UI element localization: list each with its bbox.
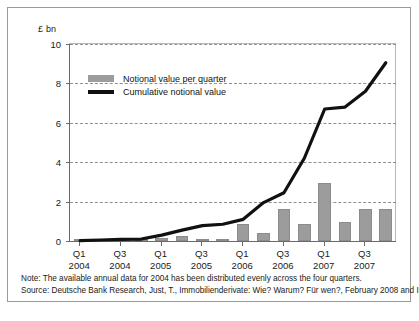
x-tick-label-year: 2004 — [97, 260, 143, 272]
chart-figure: £ bn 0246810 Q12004Q32004Q12005Q32005Q12… — [7, 7, 411, 302]
legend-swatch-line-icon — [88, 90, 114, 94]
y-tick-mark — [66, 241, 70, 242]
chart-legend: Notional value per quarter Cumulative no… — [88, 72, 227, 98]
x-tick-mark — [79, 242, 80, 246]
y-tick-label: 8 — [35, 78, 61, 89]
footnotes: Note: The available annual data for 2004… — [21, 273, 402, 296]
x-tick-label-quarter: Q1 — [56, 248, 102, 260]
note-line: Note: The available annual data for 2004… — [21, 273, 402, 285]
x-tick-label-year: 2007 — [301, 260, 347, 272]
legend-swatch-bar-icon — [88, 75, 114, 82]
y-tick-label: 6 — [35, 117, 61, 128]
x-tick-label-quarter: Q1 — [219, 248, 265, 260]
x-tick-label: Q12007 — [301, 248, 347, 272]
y-axis-unit-label: £ bn — [38, 24, 56, 34]
x-tick-label: Q12005 — [138, 248, 184, 272]
x-tick-mark — [283, 242, 284, 246]
legend-label-line: Cumulative notional value — [123, 87, 226, 97]
x-tick-label-year: 2005 — [138, 260, 184, 272]
x-tick-label-year: 2007 — [341, 260, 387, 272]
x-tick-label: Q12006 — [219, 248, 265, 272]
x-tick-label-year: 2005 — [178, 260, 224, 272]
y-tick-label: 2 — [35, 196, 61, 207]
x-tick-mark — [120, 242, 121, 246]
x-tick-mark — [161, 242, 162, 246]
x-tick-label-quarter: Q1 — [138, 248, 184, 260]
x-tick-mark — [364, 242, 365, 246]
x-tick-label-quarter: Q3 — [97, 248, 143, 260]
x-tick-label-quarter: Q1 — [301, 248, 347, 260]
x-tick-mark — [201, 242, 202, 246]
legend-item-line: Cumulative notional value — [88, 85, 227, 98]
x-tick-mark — [242, 242, 243, 246]
x-tick-label: Q32004 — [97, 248, 143, 272]
x-tick-label-year: 2006 — [260, 260, 306, 272]
y-tick-label: 10 — [35, 39, 61, 50]
x-tick-label-quarter: Q3 — [260, 248, 306, 260]
x-tick-label-quarter: Q3 — [178, 248, 224, 260]
legend-item-bars: Notional value per quarter — [88, 72, 227, 85]
x-tick-mark — [324, 242, 325, 246]
x-tick-label: Q32006 — [260, 248, 306, 272]
x-tick-label-year: 2006 — [219, 260, 265, 272]
x-tick-label-year: 2004 — [56, 260, 102, 272]
x-tick-label: Q12004 — [56, 248, 102, 272]
x-tick-label: Q32005 — [178, 248, 224, 272]
x-tick-label: Q32007 — [341, 248, 387, 272]
y-tick-label: 0 — [35, 236, 61, 247]
y-tick-label: 4 — [35, 157, 61, 168]
x-tick-label-quarter: Q3 — [341, 248, 387, 260]
legend-label-bars: Notional value per quarter — [123, 74, 227, 84]
source-line: Source: Deutsche Bank Research, Just, T.… — [21, 285, 402, 297]
